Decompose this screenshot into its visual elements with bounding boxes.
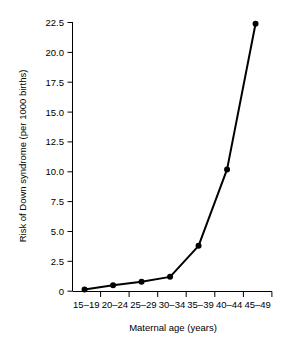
data-point <box>139 279 145 285</box>
data-point <box>224 166 230 172</box>
x-tick-label: 45–49 <box>244 299 270 310</box>
data-point <box>196 243 202 249</box>
y-tick-label: 22.5 <box>46 17 65 28</box>
data-point <box>167 274 173 280</box>
data-point <box>253 21 259 27</box>
x-tick-label: 35–39 <box>187 299 213 310</box>
x-axis-title: Maternal age (years) <box>129 322 217 333</box>
y-tick-label: 10.0 <box>46 166 65 177</box>
x-tick-label: 20–24 <box>102 299 128 310</box>
y-tick-label: 7.5 <box>51 196 64 207</box>
x-tick-label: 40–44 <box>216 299 242 310</box>
y-axis-title: Risk of Down syndrome (per 1000 births) <box>17 70 28 243</box>
y-tick-label: 15.0 <box>46 107 65 118</box>
x-tick-label: 15–19 <box>73 299 99 310</box>
y-tick-label: 20.0 <box>46 47 65 58</box>
data-point <box>110 282 116 288</box>
x-tick-label: 25–29 <box>130 299 156 310</box>
y-tick-label: 0 <box>59 286 64 297</box>
y-tick-label: 2.5 <box>51 256 64 267</box>
chart-background <box>0 0 290 346</box>
y-tick-label: 12.5 <box>46 136 65 147</box>
x-tick-label: 30–34 <box>159 299 185 310</box>
y-tick-label: 17.5 <box>46 77 65 88</box>
down-syndrome-risk-line-chart: 22.5 20.0 17.5 15.0 12.5 10.0 7.5 5.0 2.… <box>0 0 290 346</box>
x-tick-labels: 15–19 20–24 25–29 30–34 35–39 40–44 45–4… <box>73 299 271 310</box>
y-tick-label: 5.0 <box>51 226 64 237</box>
chart-figure: 22.5 20.0 17.5 15.0 12.5 10.0 7.5 5.0 2.… <box>0 0 290 346</box>
data-point <box>82 286 88 292</box>
